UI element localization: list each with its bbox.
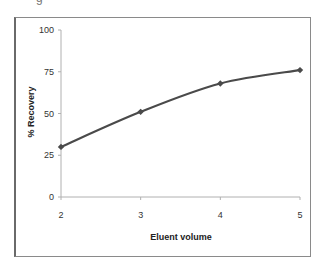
plot-area — [58, 67, 303, 150]
x-tick-label: 5 — [297, 210, 302, 220]
data-point-marker — [217, 80, 223, 86]
y-tick-label: 25 — [44, 150, 54, 160]
x-tick-label: 3 — [138, 210, 143, 220]
x-tick-label: 2 — [58, 210, 63, 220]
data-point-marker — [58, 144, 64, 150]
data-line — [61, 70, 300, 147]
data-point-marker — [297, 67, 303, 73]
y-tick-label: 100 — [39, 25, 54, 35]
x-axis-label: Eluent volume — [150, 232, 212, 242]
y-tick-label: 50 — [44, 109, 54, 119]
x-tick-label: 4 — [218, 210, 223, 220]
y-tick-label: 75 — [44, 67, 54, 77]
y-axis-label: % Recovery — [26, 86, 36, 137]
y-tick-label: 0 — [49, 192, 54, 202]
data-point-marker — [137, 109, 143, 115]
axes: 02550751002345 — [39, 25, 303, 220]
line-chart: 02550751002345 % Recovery Eluent volume — [0, 0, 322, 269]
